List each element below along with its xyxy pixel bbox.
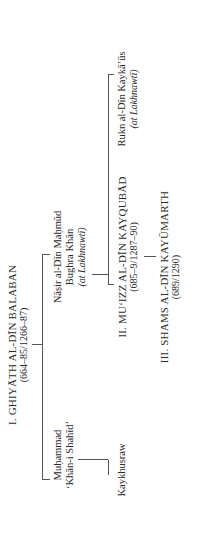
muizz-name: II. MUʻIZZ AL-DĪN KAYQUBĀD [116,176,128,337]
stem-nasir [92,274,108,275]
stem-balaban [32,344,42,345]
node-muhammad: Muḥammad ʻKhān-i Shahīdʼ [52,421,76,489]
node-muizz: II. MUʻIZZ AL-DĪN KAYQUBĀD (685–9/1287–9… [116,176,140,337]
shams-dates: (689/1290) [170,191,182,363]
kaykhusraw-name: Kaykhusraw [116,443,128,496]
drop-nasir [42,254,50,255]
bracket-gen3 [108,75,109,285]
node-nasir: Nāṣir al-Dīn Maḥmūd Bughra Khān (at Lakh… [52,211,88,304]
balaban-dates: (664–85/1266–87) [18,265,30,425]
nasir-line2: Bughra Khān [64,211,76,304]
drop-muhammad [42,479,50,480]
bracket-kaykhusraw [108,460,109,475]
rukn-note: (at Lakhnawtī) [128,51,140,146]
rukn-name: Rukn al-Dīn Kaykāʼūs [116,51,128,146]
stem-muhammad [78,459,108,460]
drop-rukn [108,74,114,75]
balaban-name: I. GHIYĀTH AL-DĪN BALABAN [6,265,18,425]
muhammad-line1: Muḥammad [52,421,64,489]
shams-name: III. SHAMS AL-DĪN KAYŪMARTH [158,191,170,363]
node-kaykhusraw: Kaykhusraw [116,443,128,496]
bracket-gen2 [42,255,43,480]
stem-muizz [144,256,156,257]
nasir-note: (at Lakhnawtī) [76,211,88,304]
genealogy-diagram: I. GHIYĀTH AL-DĪN BALABAN (664–85/1266–8… [0,0,204,545]
muizz-dates: (685–9/1287–90) [128,176,140,337]
drop-muizz [108,284,114,285]
node-shams: III. SHAMS AL-DĪN KAYŪMARTH (689/1290) [158,191,182,363]
muhammad-line2: ʻKhān-i Shahīdʼ [64,421,76,489]
node-rukn: Rukn al-Dīn Kaykāʼūs (at Lakhnawtī) [116,51,140,146]
nasir-line1: Nāṣir al-Dīn Maḥmūd [52,211,64,304]
node-balaban: I. GHIYĀTH AL-DĪN BALABAN (664–85/1266–8… [6,265,30,425]
